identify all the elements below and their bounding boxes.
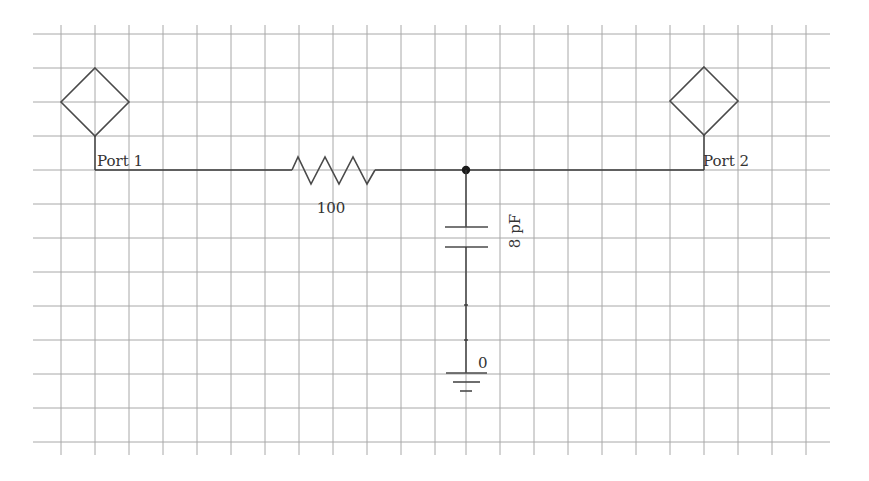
ground[interactable]: 0 xyxy=(446,354,488,391)
ground-node-label: 0 xyxy=(478,354,488,372)
background-grid xyxy=(33,25,830,455)
port-1-label: Port 1 xyxy=(97,152,143,170)
capacitor-value-label: 8 pF xyxy=(506,214,524,248)
resistor-value-label: 100 xyxy=(317,199,346,217)
port-2[interactable]: Port 2 xyxy=(670,67,749,170)
port-2-label: Port 2 xyxy=(703,152,749,170)
port-1[interactable]: Port 1 xyxy=(61,68,143,170)
circuit-schematic: Port 1 Port 2 100 8 pF 0 xyxy=(0,0,869,481)
